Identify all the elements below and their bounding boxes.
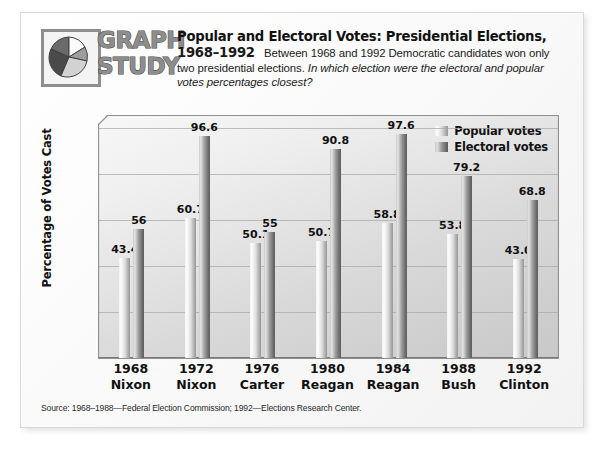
page-title: Popular and Electoral Votes: Presidentia…	[177, 29, 569, 44]
gridline	[99, 220, 558, 221]
y-axis-tick-80: 80	[75, 167, 92, 182]
bar-1976-popular: 50.1	[250, 243, 261, 358]
bar-1988-electoral: 79.2	[461, 176, 472, 358]
y-axis-tickmark	[94, 358, 99, 359]
bar-1972-electoral: 96.6	[199, 136, 210, 358]
header-description: 1968–1992 Between 1968 and 1992 Democrat…	[177, 46, 569, 90]
y-axis-tick-40: 40	[75, 259, 92, 274]
x-axis-year: 1968	[111, 361, 151, 377]
y-axis-tick-60: 60	[75, 213, 92, 228]
y-axis-tick-0: 0	[83, 351, 92, 366]
gridline	[99, 128, 558, 129]
bar-1968-popular: 43.4	[119, 258, 130, 358]
x-axis-president: Carter	[240, 377, 284, 393]
bar-1980-electoral: 90.8	[330, 149, 341, 358]
x-axis-president: Nixon	[176, 377, 216, 393]
y-axis-tick-100: 100	[66, 121, 92, 136]
graph-study-card: GRAPH STUDY Popular and Electoral Votes:…	[20, 12, 584, 428]
x-axis-group-1980: 1980Reagan	[301, 361, 354, 393]
x-axis-year: 1988	[441, 361, 476, 377]
bar-value-label: 96.6	[191, 121, 218, 134]
bar-value-label: 90.8	[322, 134, 349, 147]
graph-study-logo: GRAPH STUDY	[41, 27, 169, 83]
legend-item-popular-votes: Popular votes	[435, 124, 548, 138]
bar-1972-popular: 60.7	[185, 218, 196, 358]
plot-area: Popular votes Electoral votes 0204060801…	[98, 115, 559, 359]
x-axis-group-1988: 1988Bush	[441, 361, 476, 393]
title-block: Popular and Electoral Votes: Presidentia…	[177, 29, 569, 90]
legend-label-electoral: Electoral votes	[454, 140, 548, 154]
x-axis-group-1992: 1992Clinton	[499, 361, 549, 393]
x-axis-group-1976: 1976Carter	[240, 361, 284, 393]
y-axis-tick-20: 20	[75, 305, 92, 320]
x-axis-group-1968: 1968Nixon	[111, 361, 151, 393]
x-axis-president: Nixon	[111, 377, 151, 393]
bar-1992-electoral: 68.8	[527, 200, 538, 358]
x-axis-president: Reagan	[367, 377, 420, 393]
bar-1992-popular: 43.0	[513, 259, 524, 358]
header-year-range: 1968–1992	[177, 45, 255, 60]
bar-1980-popular: 50.7	[316, 241, 327, 358]
screenshot-root: GRAPH STUDY Popular and Electoral Votes:…	[0, 0, 608, 454]
bar-value-label: 55	[262, 217, 277, 230]
y-axis-tickmark	[94, 312, 99, 313]
axis-baseline	[99, 357, 558, 358]
legend-label-popular: Popular votes	[454, 124, 541, 138]
logo-wordmark: GRAPH STUDY	[97, 27, 171, 83]
bar-1988-popular: 53.8	[447, 234, 458, 358]
gridline	[99, 312, 558, 313]
x-axis-president: Clinton	[499, 377, 549, 393]
bar-1984-popular: 58.8	[382, 223, 393, 358]
x-axis-year: 1976	[240, 361, 284, 377]
y-axis-tickmark	[94, 266, 99, 267]
gridline	[99, 266, 558, 267]
logo-word-graph: GRAPH	[97, 27, 171, 53]
source-note: Source: 1968–1988—Federal Election Commi…	[41, 403, 361, 413]
x-axis-year: 1984	[367, 361, 420, 377]
pie-chart-icon	[47, 35, 91, 79]
bar-1984-electoral: 97.6	[396, 134, 407, 358]
y-axis-title: Percentage of Votes Cast	[40, 108, 54, 308]
y-axis-tickmark	[94, 220, 99, 221]
logo-frame	[41, 29, 101, 87]
header: GRAPH STUDY Popular and Electoral Votes:…	[21, 13, 583, 101]
x-axis-year: 1980	[301, 361, 354, 377]
x-axis-president: Reagan	[301, 377, 354, 393]
card-inner-surface: GRAPH STUDY Popular and Electoral Votes:…	[21, 13, 583, 427]
x-axis-year: 1972	[176, 361, 216, 377]
legend-item-electoral-votes: Electoral votes	[435, 140, 548, 154]
bar-value-label: 56	[131, 214, 146, 227]
x-axis-group-1984: 1984Reagan	[367, 361, 420, 393]
x-axis-group-1972: 1972Nixon	[176, 361, 216, 393]
x-axis-labels: 1968Nixon1972Nixon1976Carter1980Reagan19…	[98, 361, 557, 403]
gridline	[99, 174, 558, 175]
logo-word-study: STUDY	[97, 53, 171, 79]
x-axis-year: 1992	[499, 361, 549, 377]
chart-area: Percentage of Votes Cast Popular votes E…	[21, 101, 583, 391]
x-axis-president: Bush	[441, 377, 476, 393]
bar-value-label: 79.2	[453, 161, 480, 174]
bar-value-label: 97.6	[387, 119, 414, 132]
y-axis-tickmark	[94, 128, 99, 129]
y-axis-tickmark	[94, 174, 99, 175]
bar-1968-electoral: 56	[133, 229, 144, 358]
legend-swatch-electoral	[435, 142, 448, 152]
bar-value-label: 68.8	[519, 185, 546, 198]
bar-1976-electoral: 55	[264, 232, 275, 359]
